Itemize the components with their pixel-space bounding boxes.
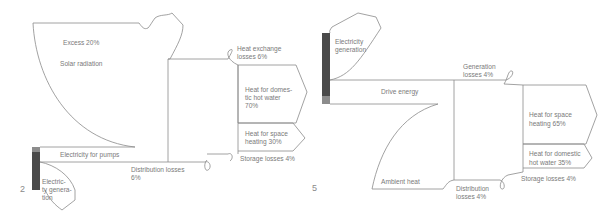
electricity-generation-label-2: generation	[335, 46, 366, 54]
space-heating-label-2: heating 30%	[245, 138, 282, 146]
hot-water-label-3: 70%	[245, 102, 258, 109]
distribution-losses-label-2: losses 4%	[456, 193, 486, 200]
hot-water-label-1: Heat for domes-	[245, 86, 292, 93]
diagram-5: 5 Electricity generation Drive energy Am…	[312, 13, 597, 200]
generation-losses-label-2: losses 4%	[463, 71, 493, 78]
electricity-generation-label-2: ty genera-	[42, 186, 72, 194]
diagram-number-5: 5	[312, 183, 317, 193]
electricity-generation-label-3: tion	[42, 194, 53, 201]
solar-radiation-label: Solar radiation	[60, 60, 103, 67]
storage-losses-label: Storage losses 4%	[240, 155, 295, 163]
electricity-generation-label-1: Electricity	[335, 38, 364, 46]
space-heating-arrow	[238, 123, 305, 151]
ambient-heat-label: Ambient heat	[381, 178, 420, 185]
hot-water-label-1: Heat for domestic	[529, 150, 581, 157]
generation-losses-label-1: Generation	[463, 63, 496, 70]
diagram-number: 2	[20, 184, 25, 194]
distribution-losses-value: 6%	[131, 174, 141, 181]
heat-exchange-losses-label-2: losses 6%	[237, 53, 267, 60]
electricity-for-pumps-label: Electricity for pumps	[60, 151, 120, 159]
electricity-bar-5	[322, 33, 330, 96]
hot-water-label-2: hot water 35%	[529, 159, 571, 166]
sankey-diagrams: 2 Excess 20% Solar radiation Electricity…	[0, 0, 614, 222]
electricity-bar	[32, 152, 40, 190]
hot-water-label-2: tic hot water	[245, 94, 281, 101]
distribution-losses-label: Distribution losses	[131, 166, 185, 173]
storage-losses-label: Storage losses 4%	[521, 175, 576, 183]
drive-energy-label: Drive energy	[381, 88, 419, 96]
space-heating-label-1: Heat for space	[529, 111, 572, 119]
diagram-2: 2 Excess 20% Solar radiation Electricity…	[20, 13, 307, 210]
space-heating-label-2: heating 65%	[529, 120, 566, 128]
solar-radiation-flow	[33, 13, 183, 147]
bar-light-segment	[32, 147, 40, 152]
excess-label: Excess 20%	[63, 39, 99, 46]
electricity-generation-label-1: Electric-	[42, 178, 66, 185]
heat-exchange-losses-label-1: Heat exchange	[237, 45, 282, 53]
bar-light-segment-5	[322, 96, 330, 104]
space-heating-label-1: Heat for space	[245, 130, 288, 138]
distribution-losses-label-1: Distribution	[456, 185, 489, 192]
